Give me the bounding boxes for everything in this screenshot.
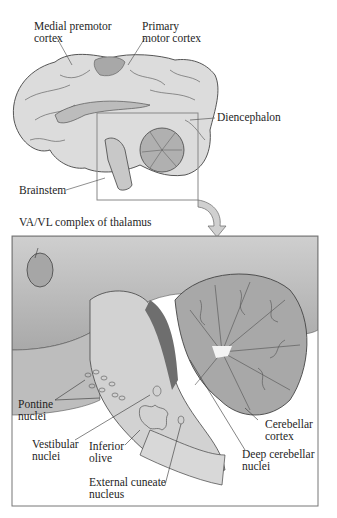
label-diencephalon: Diencephalon bbox=[217, 111, 281, 123]
label-pontine-nuclei: Pontine nuclei bbox=[18, 398, 53, 422]
label-medial-premotor-cortex: Medial premotor cortex bbox=[34, 20, 112, 44]
label-vestibular-nuclei: Vestibular nuclei bbox=[32, 438, 79, 462]
vavl-complex bbox=[27, 253, 53, 287]
label-cerebellar-cortex: Cerebellar cortex bbox=[265, 418, 313, 442]
label-vavl-complex: VA/VL complex of thalamus bbox=[19, 216, 152, 228]
medial-brain-view bbox=[13, 38, 218, 200]
label-inferior-olive: Inferior olive bbox=[89, 440, 124, 464]
label-primary-motor-cortex: Primary motor cortex bbox=[142, 20, 201, 44]
label-deep-cerebellar-nuclei: Deep cerebellar nuclei bbox=[242, 448, 314, 472]
zoom-arrow-icon bbox=[198, 200, 226, 237]
label-brainstem: Brainstem bbox=[19, 184, 66, 196]
label-external-cuneate-nucleus: External cuneate nucleus bbox=[89, 476, 166, 500]
